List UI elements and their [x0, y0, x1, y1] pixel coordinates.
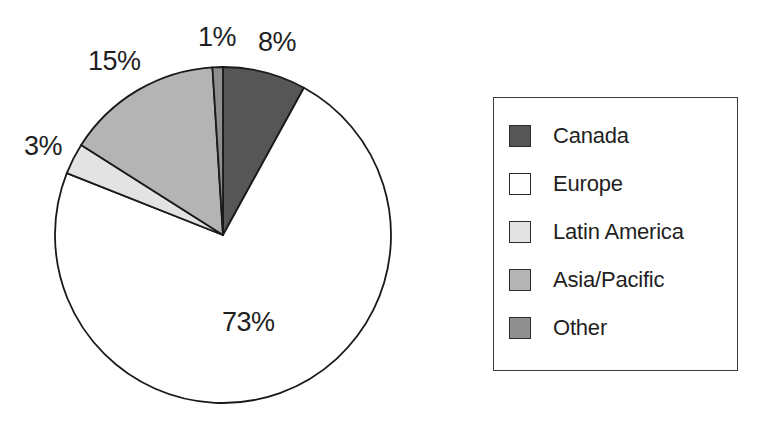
- legend-label-europe: Europe: [553, 173, 623, 195]
- legend-swatch-latin-america-icon: [509, 221, 531, 243]
- slice-label-canada: 8%: [258, 29, 296, 56]
- legend-label-asia-pacific: Asia/Pacific: [553, 269, 664, 291]
- pie-chart-figure: 1% 8% 15% 3% 73% Canada Europe Latin Ame…: [0, 0, 759, 423]
- legend-item-canada: Canada: [494, 112, 737, 160]
- legend-item-other: Other: [494, 304, 737, 352]
- legend-item-asia-pacific: Asia/Pacific: [494, 256, 737, 304]
- legend-swatch-europe-icon: [509, 173, 531, 195]
- legend-label-latin-america: Latin America: [553, 221, 684, 243]
- pie-slice-group: [55, 67, 391, 403]
- slice-label-europe: 73%: [222, 309, 275, 336]
- slice-label-asia-pacific: 15%: [88, 48, 141, 75]
- slice-label-latin-america: 3%: [24, 133, 62, 160]
- legend-label-other: Other: [553, 317, 607, 339]
- legend-swatch-asia-pacific-icon: [509, 269, 531, 291]
- legend-item-europe: Europe: [494, 160, 737, 208]
- legend-item-latin-america: Latin America: [494, 208, 737, 256]
- pie-chart-plot-area: [53, 65, 393, 405]
- legend-label-canada: Canada: [553, 125, 629, 147]
- chart-legend: Canada Europe Latin America Asia/Pacific…: [493, 97, 738, 371]
- slice-label-other: 1%: [198, 24, 236, 51]
- legend-swatch-other-icon: [509, 317, 531, 339]
- pie-svg: [53, 65, 393, 405]
- legend-swatch-canada-icon: [509, 125, 531, 147]
